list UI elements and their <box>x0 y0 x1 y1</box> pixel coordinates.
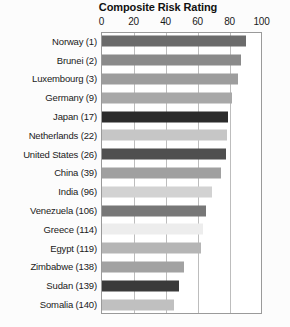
bar-row: Germany (9) <box>0 88 290 107</box>
category-label: Norway (1) <box>3 36 97 47</box>
x-tick-label-100: 100 <box>253 16 269 27</box>
x-tick-label-40: 40 <box>160 16 171 27</box>
category-label: Japan (17) <box>3 111 97 122</box>
x-tick-label-20: 20 <box>128 16 139 27</box>
bar-rows: Norway (1)Brunei (2)Luxembourg (3)German… <box>0 32 290 314</box>
bar <box>102 111 228 122</box>
category-label: Greece (114) <box>3 224 97 235</box>
category-label: Egypt (119) <box>3 243 97 254</box>
category-label: China (39) <box>3 167 97 178</box>
bar-row: Zimbabwe (138) <box>0 258 290 277</box>
bar <box>102 130 227 141</box>
category-label: United States (26) <box>3 149 97 160</box>
bar-row: Japan (17) <box>0 107 290 126</box>
bar-row: Somalia (140) <box>0 295 290 314</box>
bar-row: Luxembourg (3) <box>0 70 290 89</box>
category-label: Brunei (2) <box>3 55 97 66</box>
bar <box>102 149 226 160</box>
chart-title: Composite Risk Rating <box>0 1 290 13</box>
bar <box>102 167 221 178</box>
composite-risk-rating-chart: Composite Risk Rating 020406080100 Norwa… <box>0 0 290 327</box>
bar-row: Sudan (139) <box>0 276 290 295</box>
bar <box>102 205 206 216</box>
bar <box>102 55 241 66</box>
bar-row: Venezuela (106) <box>0 201 290 220</box>
bar <box>102 261 184 272</box>
bar-row: Norway (1) <box>0 32 290 51</box>
category-label: Luxembourg (3) <box>3 73 97 84</box>
bar-row: India (96) <box>0 182 290 201</box>
bar <box>102 224 203 235</box>
bar-row: Greece (114) <box>0 220 290 239</box>
bar-row: Egypt (119) <box>0 239 290 258</box>
bar-row: United States (26) <box>0 145 290 164</box>
category-label: Netherlands (22) <box>3 130 97 141</box>
category-label: Zimbabwe (138) <box>3 261 97 272</box>
x-tick-label-80: 80 <box>224 16 235 27</box>
category-label: Venezuela (106) <box>3 205 97 216</box>
x-axis-tick-labels: 020406080100 <box>0 16 290 30</box>
x-tick-label-60: 60 <box>192 16 203 27</box>
bar <box>102 243 201 254</box>
x-tick-label-0: 0 <box>99 16 104 27</box>
bar <box>102 186 212 197</box>
bar-row: Netherlands (22) <box>0 126 290 145</box>
bar <box>102 36 246 47</box>
bar <box>102 92 232 103</box>
category-label: India (96) <box>3 186 97 197</box>
bar-row: China (39) <box>0 164 290 183</box>
category-label: Somalia (140) <box>3 299 97 310</box>
bar <box>102 299 174 310</box>
bar-row: Brunei (2) <box>0 51 290 70</box>
bar <box>102 73 238 84</box>
bar <box>102 280 179 291</box>
category-label: Sudan (139) <box>3 280 97 291</box>
category-label: Germany (9) <box>3 92 97 103</box>
